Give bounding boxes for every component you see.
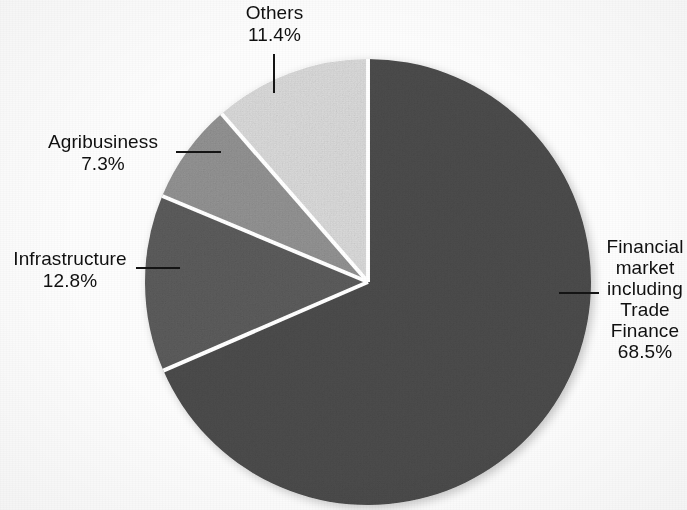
pie-label-others-name: Others	[182, 2, 367, 24]
leader-line-infrastructure	[136, 267, 180, 269]
pie-label-infrastructure-value: 12.8%	[0, 270, 140, 292]
leader-line-agribusiness	[176, 151, 221, 153]
pie-label-others-value: 11.4%	[182, 24, 367, 46]
pie-label-agribusiness-name: Agribusiness	[24, 131, 182, 153]
pie-chart-figure: Others 11.4% Agribusiness 7.3% Infrastru…	[0, 0, 687, 510]
pie-label-financial-market-value: 68.5%	[603, 341, 687, 362]
leader-line-financial-market	[559, 292, 599, 294]
pie-label-agribusiness: Agribusiness 7.3%	[24, 131, 182, 174]
leader-line-others	[273, 54, 275, 93]
pie-label-others: Others 11.4%	[182, 2, 367, 45]
pie-label-financial-market-name: FinancialmarketincludingTradeFinance	[603, 236, 687, 341]
pie-label-agribusiness-value: 7.3%	[24, 153, 182, 175]
pie-label-infrastructure: Infrastructure 12.8%	[0, 248, 140, 291]
pie-label-infrastructure-name: Infrastructure	[0, 248, 140, 270]
pie-label-financial-market: FinancialmarketincludingTradeFinance 68.…	[603, 236, 687, 362]
